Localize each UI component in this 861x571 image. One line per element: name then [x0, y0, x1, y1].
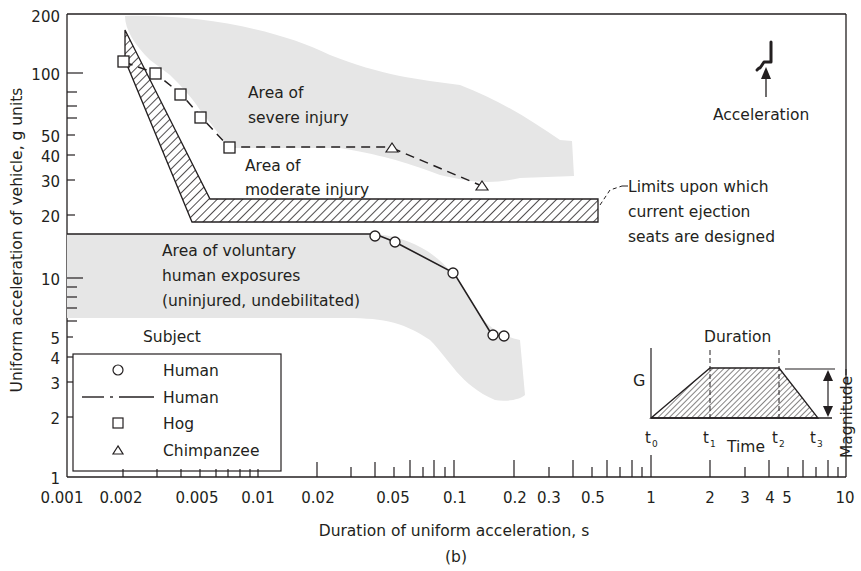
svg-text:2: 2 — [50, 410, 60, 428]
legend-label-human-line: Human — [163, 389, 219, 407]
inset-t3-label: t — [810, 429, 816, 447]
svg-text:3: 3 — [740, 489, 750, 507]
svg-text:100: 100 — [31, 66, 60, 84]
svg-text:0.005: 0.005 — [176, 489, 219, 507]
seat-icon — [757, 42, 771, 70]
hog-data-point — [118, 56, 129, 67]
legend-label-chimpanzee: Chimpanzee — [163, 442, 259, 460]
svg-text:2: 2 — [779, 439, 785, 449]
svg-text:10: 10 — [41, 271, 60, 289]
voluntary-exposure-label: human exposures — [162, 267, 300, 285]
svg-text:0.02: 0.02 — [301, 489, 334, 507]
moderate-injury-label: Area of — [245, 157, 301, 175]
inset-duration-label: Duration — [704, 328, 771, 346]
voluntary-exposure-label: Area of voluntary — [162, 242, 296, 260]
svg-text:1: 1 — [50, 470, 60, 488]
inset-magnitude-label: Magnitude — [838, 376, 856, 458]
chimpanzee-data-point — [476, 181, 488, 190]
inset-time-label: Time — [726, 438, 765, 456]
acceleration-arrow-icon — [761, 67, 771, 97]
svg-text:1: 1 — [646, 489, 656, 507]
hog-data-point — [150, 68, 161, 79]
acceleration-label: Acceleration — [713, 106, 809, 124]
svg-text:30: 30 — [41, 173, 60, 191]
moderate-injury-label: moderate injury — [245, 181, 369, 199]
y-axis-labels: 200 100 50 40 30 20 10 5 4 3 2 1 — [31, 8, 60, 488]
svg-text:0.002: 0.002 — [100, 489, 143, 507]
legend-label-hog: Hog — [163, 415, 194, 433]
svg-text:20: 20 — [41, 208, 60, 226]
magnitude-arrow-down-icon — [823, 406, 833, 417]
human-data-point — [370, 231, 380, 241]
severe-injury-label: Area of — [248, 84, 304, 102]
svg-text:0.1: 0.1 — [443, 489, 467, 507]
svg-text:4: 4 — [765, 489, 775, 507]
limits-leader-line — [600, 186, 622, 205]
human-data-point — [448, 268, 458, 278]
svg-text:3: 3 — [817, 439, 823, 449]
y-axis-title: Uniform acceleration of vehicle, g units — [8, 88, 26, 393]
inset-t2-label: t — [772, 429, 778, 447]
svg-text:0.5: 0.5 — [581, 489, 605, 507]
legend-square-icon — [113, 418, 123, 428]
svg-text:4: 4 — [50, 350, 60, 368]
legend-title: Subject — [143, 328, 201, 346]
severe-injury-region — [125, 16, 574, 182]
x-axis-title: Duration of uniform acceleration, s — [319, 522, 590, 540]
svg-text:0.3: 0.3 — [537, 489, 561, 507]
magnitude-arrow-up-icon — [823, 370, 833, 381]
human-data-point — [499, 331, 509, 341]
svg-text:40: 40 — [41, 148, 60, 166]
limits-label: seats are designed — [628, 228, 775, 246]
legend-circle-icon — [113, 365, 123, 375]
hog-data-point — [195, 112, 206, 123]
inset-t0-label: t — [645, 429, 651, 447]
svg-text:3: 3 — [50, 375, 60, 393]
acceleration-pulse-inset: G Duration Time Magnitude t 0 t 1 t 2 t … — [633, 328, 856, 458]
svg-text:5: 5 — [50, 330, 60, 348]
limits-label: current ejection — [628, 203, 750, 221]
severe-injury-label: severe injury — [248, 109, 349, 127]
human-data-point — [390, 237, 400, 247]
svg-text:5: 5 — [782, 489, 792, 507]
x-axis-labels: 0.001 0.002 0.005 0.01 0.02 0.05 0.1 0.2… — [41, 489, 855, 507]
svg-text:0.01: 0.01 — [241, 489, 274, 507]
hog-data-point — [175, 89, 186, 100]
legend: Human Human Hog Chimpanzee — [73, 354, 281, 471]
svg-text:2: 2 — [705, 489, 715, 507]
figure-caption: (b) — [445, 548, 467, 566]
legend-label-human: Human — [163, 362, 219, 380]
hog-data-point — [224, 142, 235, 153]
svg-text:200: 200 — [31, 8, 60, 26]
svg-text:10: 10 — [835, 489, 854, 507]
svg-text:0.2: 0.2 — [503, 489, 527, 507]
svg-text:0.05: 0.05 — [376, 489, 409, 507]
svg-text:0: 0 — [652, 439, 658, 449]
voluntary-exposure-label: (uninjured, undebilitated) — [162, 292, 360, 310]
svg-text:0.001: 0.001 — [41, 489, 84, 507]
inset-g-label: G — [633, 371, 645, 390]
human-data-point — [488, 330, 498, 340]
svg-text:50: 50 — [41, 128, 60, 146]
injury-tolerance-chart: Area of severe injury Area of moderate i… — [0, 0, 861, 571]
limits-label: Limits upon which — [628, 178, 768, 196]
inset-t1-label: t — [703, 429, 709, 447]
svg-text:1: 1 — [710, 439, 716, 449]
